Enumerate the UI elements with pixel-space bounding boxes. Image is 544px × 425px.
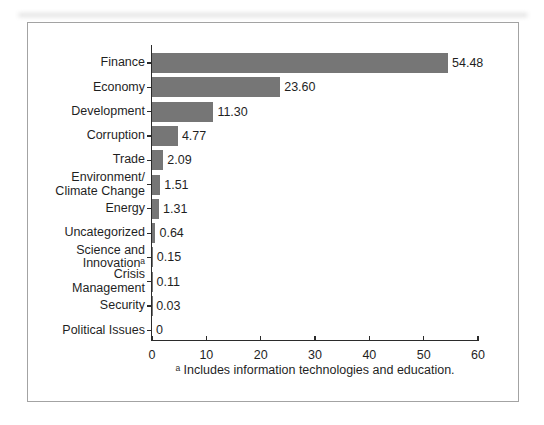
bar bbox=[152, 150, 163, 170]
figure-frame: Finance54.48Economy23.60Development11.30… bbox=[27, 22, 519, 402]
category-label: Development bbox=[28, 99, 145, 123]
x-tick bbox=[314, 336, 315, 341]
category-label-line: Uncategorized bbox=[64, 226, 145, 240]
x-tick-label: 0 bbox=[135, 348, 169, 362]
x-tick bbox=[260, 336, 261, 341]
value-label: 0.11 bbox=[157, 274, 180, 290]
bar-chart: Finance54.48Economy23.60Development11.30… bbox=[28, 23, 518, 401]
category-label: Political Issues bbox=[28, 318, 145, 342]
category-label-line: Finance bbox=[101, 56, 145, 70]
value-label: 1.31 bbox=[163, 201, 187, 217]
bar bbox=[152, 223, 155, 243]
bar bbox=[152, 126, 178, 146]
footnote: ᵃ Includes information technologies and … bbox=[138, 363, 492, 377]
y-tick bbox=[147, 62, 152, 63]
category-label: Environment/Climate Change bbox=[28, 172, 145, 196]
category-label-line: Security bbox=[100, 299, 145, 313]
x-tick-label: 60 bbox=[461, 348, 495, 362]
x-tick bbox=[477, 336, 478, 341]
category-label: Energy bbox=[28, 197, 145, 221]
x-tick bbox=[151, 336, 152, 341]
category-label-line: Development bbox=[71, 105, 145, 119]
category-label: Security bbox=[28, 294, 145, 318]
bar bbox=[152, 77, 280, 97]
scan-artifact bbox=[18, 13, 528, 17]
y-tick bbox=[147, 233, 152, 234]
x-tick-label: 20 bbox=[244, 348, 278, 362]
screenshot: Finance54.48Economy23.60Development11.30… bbox=[0, 0, 544, 425]
value-label: 54.48 bbox=[452, 55, 483, 71]
bar bbox=[152, 199, 159, 219]
x-tick bbox=[369, 336, 370, 341]
y-tick bbox=[147, 135, 152, 136]
category-label: Trade bbox=[28, 148, 145, 172]
category-label-line: Political Issues bbox=[62, 324, 145, 338]
category-label-line: Science and bbox=[76, 244, 145, 258]
category-label: Corruption bbox=[28, 124, 145, 148]
bar bbox=[152, 175, 160, 195]
bar bbox=[152, 247, 153, 267]
x-tick-label: 40 bbox=[352, 348, 386, 362]
value-label: 0.64 bbox=[159, 225, 183, 241]
value-label: 23.60 bbox=[284, 79, 315, 95]
y-tick bbox=[147, 330, 152, 331]
y-tick bbox=[147, 281, 152, 282]
value-label: 0.15 bbox=[157, 249, 181, 265]
category-label-line: Trade bbox=[113, 153, 145, 167]
bar bbox=[152, 102, 213, 122]
category-label: Science andInnovationᵃ bbox=[28, 245, 145, 269]
category-label: Uncategorized bbox=[28, 221, 145, 245]
bar bbox=[152, 272, 153, 292]
x-tick bbox=[423, 336, 424, 341]
value-label: 0 bbox=[156, 322, 163, 338]
y-tick bbox=[147, 184, 152, 185]
value-label: 1.51 bbox=[164, 177, 188, 193]
bar bbox=[152, 53, 448, 73]
y-tick bbox=[147, 160, 152, 161]
y-tick bbox=[147, 111, 152, 112]
category-label: CrisisManagement bbox=[28, 270, 145, 294]
category-label-line: Corruption bbox=[87, 129, 145, 143]
x-tick-label: 50 bbox=[407, 348, 441, 362]
y-tick bbox=[147, 87, 152, 88]
y-tick bbox=[147, 208, 152, 209]
value-label: 2.09 bbox=[167, 152, 191, 168]
value-label: 0.03 bbox=[156, 298, 180, 314]
category-label-line: Economy bbox=[93, 81, 145, 95]
x-tick-label: 30 bbox=[298, 348, 332, 362]
value-label: 11.30 bbox=[217, 104, 247, 120]
y-tick bbox=[147, 257, 152, 258]
category-label-line: Environment/ bbox=[71, 171, 145, 185]
category-label: Finance bbox=[28, 51, 145, 75]
category-label: Economy bbox=[28, 75, 145, 99]
category-label-line: Energy bbox=[105, 202, 145, 216]
value-label: 4.77 bbox=[182, 128, 206, 144]
x-tick-label: 10 bbox=[189, 348, 223, 362]
x-tick bbox=[206, 336, 207, 341]
y-tick bbox=[147, 305, 152, 306]
category-label-line: Crisis bbox=[114, 268, 145, 282]
